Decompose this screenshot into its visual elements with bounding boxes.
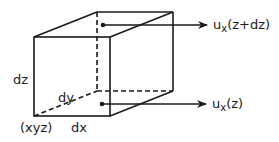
label-dy: dy <box>58 90 74 105</box>
arrow-label-bottom: ux(z) <box>212 96 243 113</box>
cube <box>34 12 173 116</box>
velocity-arrow-bottom <box>100 102 206 107</box>
velocity-arrow-top <box>101 23 207 28</box>
cube-top-left-edge <box>34 12 97 37</box>
label-dz: dz <box>13 72 28 87</box>
label-dx: dx <box>71 120 87 135</box>
arrow-label-top: ux(z+dz) <box>213 17 270 34</box>
cube-diagram: ux(z+dz) ux(z) dz dy dx (xyz) <box>0 0 279 142</box>
label-origin: (xyz) <box>20 120 52 135</box>
cube-hidden-edges <box>34 12 173 116</box>
